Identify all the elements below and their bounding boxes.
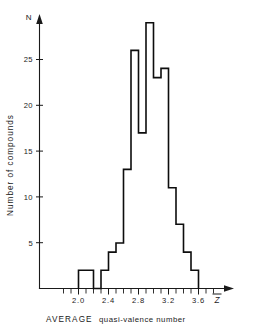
x-tick-label-3-2: 3.2 xyxy=(162,296,175,305)
histogram-canvas: N 5 10 15 20 25 Number of compounds xyxy=(0,0,256,331)
x-tick-label-3-6: 3.6 xyxy=(192,296,205,305)
y-axis-title: Number of compounds xyxy=(6,114,15,216)
x-tick-label-2-8: 2.8 xyxy=(132,296,145,305)
y-tick-label-25: 25 xyxy=(24,55,33,64)
y-axis-symbol: N xyxy=(26,13,32,22)
histogram-series xyxy=(79,23,199,289)
x-axis-symbol: Z xyxy=(213,295,220,305)
y-axis-arrow-icon xyxy=(36,14,43,24)
histogram-outline xyxy=(79,23,199,289)
y-tick-label-10: 10 xyxy=(24,193,33,202)
x-axis-arrow-icon xyxy=(224,285,234,292)
x-axis-symbol-group: Z xyxy=(213,294,222,305)
y-tick-label-20: 20 xyxy=(24,101,33,110)
x-axis-title-soft: quasi-valence number xyxy=(99,315,186,324)
histogram-figure: N 5 10 15 20 25 Number of compounds xyxy=(0,0,256,331)
y-axis-group: N 5 10 15 20 25 Number of compounds xyxy=(6,13,43,289)
x-axis-title-strong: AVERAGE xyxy=(46,315,93,324)
x-axis-group: 2.0 2.4 2.8 3.2 3.6 Z AVERAGE quasi-vale… xyxy=(40,285,235,324)
x-tick-label-2-4: 2.4 xyxy=(102,296,115,305)
y-tick-label-15: 15 xyxy=(24,147,33,156)
y-tick-label-5: 5 xyxy=(28,239,33,248)
x-tick-label-2-0: 2.0 xyxy=(72,296,85,305)
